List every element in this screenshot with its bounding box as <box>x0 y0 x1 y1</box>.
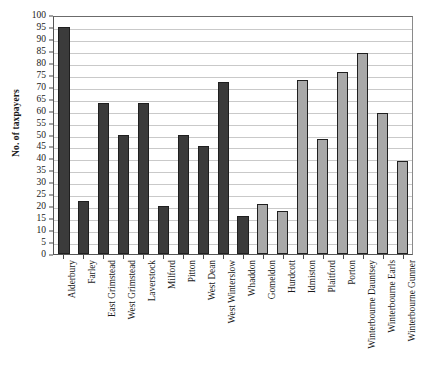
y-tick-label: 50 <box>37 131 47 141</box>
x-label-slot: West Dean <box>193 256 213 374</box>
bar[interactable] <box>377 113 388 254</box>
x-label-slot: Plaitford <box>313 256 333 374</box>
x-tick-mark <box>303 255 304 259</box>
x-label-slot: East Grimstead <box>93 256 113 374</box>
x-tick-mark <box>383 255 384 259</box>
y-tick-label: 10 <box>37 226 47 236</box>
bar-slot <box>392 17 412 254</box>
x-label-slot: Hurdcott <box>273 256 293 374</box>
x-tick-mark <box>203 255 204 259</box>
bar[interactable] <box>198 146 209 254</box>
bar[interactable] <box>178 135 189 255</box>
bar[interactable] <box>58 27 69 254</box>
bar[interactable] <box>337 72 348 254</box>
bar-slot <box>114 17 134 254</box>
y-tick-label: 85 <box>37 47 47 57</box>
bar-slot <box>94 17 114 254</box>
x-label-slot: Winterbourne Dauntsey <box>353 256 373 374</box>
bar-slot <box>213 17 233 254</box>
x-tick-mark <box>163 255 164 259</box>
bar-slot <box>313 17 333 254</box>
x-tick-mark <box>403 255 404 259</box>
y-axis: 0510152025303540455055606570758085909510… <box>0 16 53 255</box>
bar[interactable] <box>317 139 328 254</box>
bar[interactable] <box>78 201 89 254</box>
y-tick-label: 15 <box>37 214 47 224</box>
y-tick-label: 60 <box>37 107 47 117</box>
x-label-slot: Winterbourne Gunner <box>393 256 413 374</box>
bar[interactable] <box>158 206 169 254</box>
bar[interactable] <box>98 103 109 254</box>
x-tick-mark <box>243 255 244 259</box>
y-tick-label: 90 <box>37 35 47 45</box>
plot-area <box>53 16 413 255</box>
x-label-slot: Pitton <box>173 256 193 374</box>
x-tick-mark <box>223 255 224 259</box>
x-label-slot: West Winterslow <box>213 256 233 374</box>
bar-slot <box>54 17 74 254</box>
bar[interactable] <box>297 80 308 254</box>
bar-slot <box>233 17 253 254</box>
x-label-slot: Alderbury <box>53 256 73 374</box>
bar-slot <box>352 17 372 254</box>
x-label-slot: Farley <box>73 256 93 374</box>
x-label-slot: Winterbourne Earls <box>373 256 393 374</box>
bar[interactable] <box>218 82 229 254</box>
x-tick-mark <box>263 255 264 259</box>
bar-slot <box>193 17 213 254</box>
bar-slot <box>332 17 352 254</box>
y-tick-label: 5 <box>41 238 46 248</box>
bar-series <box>54 17 412 254</box>
x-label-slot: Whaddon <box>233 256 253 374</box>
x-axis-labels: AlderburyFarleyEast GrimsteadWest Grimst… <box>53 256 413 374</box>
y-tick-label: 80 <box>37 59 47 69</box>
x-tick-mark <box>363 255 364 259</box>
bar-slot <box>153 17 173 254</box>
bar-slot <box>134 17 154 254</box>
bar-slot <box>293 17 313 254</box>
bar[interactable] <box>277 211 288 254</box>
x-label-slot: Laverstock <box>133 256 153 374</box>
bar[interactable] <box>138 103 149 254</box>
x-label-slot: Idmiston <box>293 256 313 374</box>
bar-slot <box>253 17 273 254</box>
y-tick-label: 95 <box>37 23 47 33</box>
x-tick-mark <box>323 255 324 259</box>
x-tick-label: Winterbourne Gunner <box>407 260 417 341</box>
y-tick-label: 40 <box>37 155 47 165</box>
bar-chart: No. of taxpayers 05101520253035404550556… <box>0 0 426 375</box>
x-label-slot: West Grimstead <box>113 256 133 374</box>
y-tick-label: 70 <box>37 83 47 93</box>
x-tick-mark <box>183 255 184 259</box>
x-tick-mark <box>103 255 104 259</box>
bar[interactable] <box>397 161 408 254</box>
y-tick-label: 45 <box>37 143 47 153</box>
y-tick-label: 100 <box>32 11 46 21</box>
y-tick-label: 75 <box>37 71 47 81</box>
y-tick-label: 20 <box>37 202 47 212</box>
y-tick-label: 55 <box>37 119 47 129</box>
y-tick-label: 30 <box>37 179 47 189</box>
x-tick-mark <box>83 255 84 259</box>
x-label-slot: Milford <box>153 256 173 374</box>
y-tick-label: 35 <box>37 167 47 177</box>
x-label-slot: Gomeldon <box>253 256 273 374</box>
y-tick-label: 65 <box>37 95 47 105</box>
bar[interactable] <box>237 216 248 254</box>
bar-slot <box>372 17 392 254</box>
y-tick-label: 0 <box>41 250 46 260</box>
x-tick-mark <box>63 255 64 259</box>
bar[interactable] <box>357 53 368 254</box>
bar-slot <box>173 17 193 254</box>
bar[interactable] <box>257 204 268 254</box>
bar[interactable] <box>118 135 129 255</box>
x-tick-mark <box>123 255 124 259</box>
x-label-slot: Porton <box>333 256 353 374</box>
x-tick-mark <box>343 255 344 259</box>
bar-slot <box>273 17 293 254</box>
x-tick-mark <box>143 255 144 259</box>
x-tick-mark <box>283 255 284 259</box>
y-tick-label: 25 <box>37 191 47 201</box>
bar-slot <box>74 17 94 254</box>
